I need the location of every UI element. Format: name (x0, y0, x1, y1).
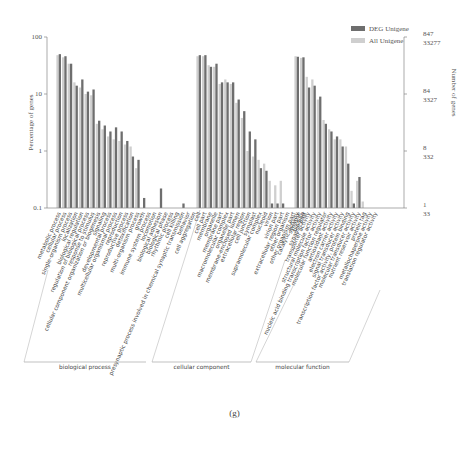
bar-all-unigene (294, 56, 296, 208)
bar-all-unigene (269, 181, 271, 208)
bar-all-unigene (219, 84, 221, 208)
bar-all-unigene (246, 151, 248, 208)
group-label: biological process (59, 364, 111, 371)
bar-deg-unigene (249, 131, 251, 208)
y2-tick-label-top: 8 (423, 144, 427, 152)
bar-all-unigene (202, 56, 204, 208)
bar-all-unigene (213, 67, 215, 208)
bar-all-unigene (356, 181, 358, 208)
y-axis-title: Percentage of genes (27, 94, 35, 150)
bar-all-unigene (345, 146, 347, 208)
group-label: molecular function (275, 364, 330, 370)
bar-all-unigene (241, 118, 243, 208)
bar-deg-unigene (64, 56, 66, 208)
bar-all-unigene (118, 141, 120, 208)
bar-deg-unigene (260, 168, 262, 208)
bar-deg-unigene (342, 146, 344, 208)
bar-deg-unigene (115, 127, 117, 208)
legend-swatch (351, 38, 365, 43)
y2-tick-label-top: 847 (423, 30, 434, 38)
bar-deg-unigene (137, 160, 139, 208)
bar-all-unigene (224, 79, 226, 208)
bar-deg-unigene (210, 67, 212, 208)
bar-all-unigene (257, 160, 259, 208)
bar-all-unigene (280, 181, 282, 208)
bar-all-unigene (252, 157, 254, 208)
bar-all-unigene (311, 79, 313, 208)
bar-all-unigene (334, 139, 336, 208)
legend-label: All Unigene (369, 37, 403, 45)
bar-deg-unigene (109, 131, 111, 208)
bar-all-unigene (235, 103, 237, 208)
bar-deg-unigene (98, 121, 100, 208)
bar-deg-unigene (302, 57, 304, 208)
bar-deg-unigene (297, 57, 299, 208)
bar-all-unigene (113, 139, 115, 208)
bar-deg-unigene (215, 64, 217, 208)
bar-deg-unigene (143, 198, 145, 208)
bar-all-unigene (124, 145, 126, 208)
bar-deg-unigene (314, 86, 316, 208)
legend-swatch (351, 26, 365, 31)
bar-all-unigene (129, 146, 131, 208)
y-tick-label: 100 (32, 33, 43, 41)
bar-deg-unigene (199, 55, 201, 208)
y-tick-label: 10 (35, 90, 43, 98)
bar-all-unigene (306, 77, 308, 208)
bar-deg-unigene (276, 203, 278, 208)
bar-all-unigene (85, 94, 87, 208)
bar-deg-unigene (336, 136, 338, 208)
bar-all-unigene (362, 202, 364, 208)
legend: DEG UnigeneAll Unigene (351, 25, 409, 45)
bar-all-unigene (274, 185, 276, 208)
legend-label: DEG Unigene (369, 25, 409, 33)
bar-deg-unigene (226, 82, 228, 208)
bar-deg-unigene (70, 64, 72, 208)
bar-deg-unigene (126, 141, 128, 208)
bar-all-unigene (135, 168, 137, 208)
bar-all-unigene (101, 129, 103, 208)
bar-deg-unigene (330, 131, 332, 208)
y2-tick-label-top: 84 (423, 87, 431, 95)
bar-deg-unigene (221, 82, 223, 208)
bar-deg-unigene (204, 55, 206, 208)
bar-deg-unigene (271, 203, 273, 208)
bar-all-unigene (328, 129, 330, 208)
bar-all-unigene (56, 55, 58, 208)
category-labels: metabolic processcellular processsingle-… (36, 210, 380, 376)
bar-deg-unigene (132, 157, 134, 208)
figure-caption: (g) (0, 408, 469, 418)
bar-deg-unigene (121, 131, 123, 208)
bar-deg-unigene (59, 54, 61, 208)
y-tick-label: 1 (39, 147, 43, 155)
bar-deg-unigene (232, 82, 234, 208)
bar-all-unigene (339, 139, 341, 208)
bar-deg-unigene (353, 203, 355, 208)
bar-all-unigene (96, 124, 98, 208)
bar-deg-unigene (81, 79, 83, 208)
bar-all-unigene (317, 100, 319, 208)
bar-deg-unigene (325, 124, 327, 208)
y2-tick-label-bottom: 33 (423, 210, 431, 218)
bar-deg-unigene (254, 139, 256, 208)
bar-all-unigene (90, 95, 92, 208)
y2-axis-title: Number of genes (450, 68, 458, 116)
bar-deg-unigene (76, 86, 78, 208)
bar-deg-unigene (243, 111, 245, 208)
bar-deg-unigene (238, 100, 240, 208)
bar-deg-unigene (308, 88, 310, 208)
bar-series (56, 54, 364, 208)
bar-all-unigene (350, 191, 352, 208)
bar-all-unigene (208, 65, 210, 208)
bar-deg-unigene (104, 126, 106, 208)
bar-all-unigene (73, 82, 75, 208)
bar-deg-unigene (265, 171, 267, 208)
bar-deg-unigene (358, 177, 360, 208)
bar-all-unigene (68, 64, 70, 208)
bar-all-unigene (62, 57, 64, 208)
y2-tick-label-bottom: 332 (423, 153, 434, 161)
bar-all-unigene (107, 136, 109, 208)
y2-tick-label-bottom: 3327 (423, 96, 438, 104)
go-classification-chart: 1001010.1847332778433278332133Percentage… (0, 0, 469, 465)
group-label: cellular component (174, 364, 231, 371)
